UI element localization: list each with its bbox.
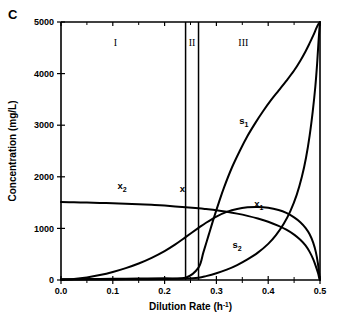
panel-label: C [8, 7, 17, 22]
y-tick-label: 5000 [34, 17, 54, 27]
region-label-III: III [238, 37, 248, 48]
curve-label-s2: s2 [233, 239, 242, 252]
x-tick-label: 0.1 [107, 286, 120, 296]
x-tick-label: 0.4 [262, 286, 275, 296]
region-label-I: I [114, 37, 117, 48]
curve-s2 [61, 22, 320, 280]
curve-s1 [61, 22, 320, 279]
curve-label-x1: x1 [254, 198, 263, 211]
curve-x2 [61, 202, 320, 280]
curve-label-s1: s1 [239, 115, 248, 128]
y-tick-label: 0 [49, 275, 54, 285]
y-tick-label: 3000 [34, 120, 54, 130]
y-tick-label: 2000 [34, 172, 54, 182]
x-tick-label: 0.3 [210, 286, 223, 296]
x-axis-title: Dilution Rate (h-1) [149, 301, 232, 313]
concentration-vs-dilution-rate-chart: 0100020003000400050000.00.10.20.30.40.5I… [0, 0, 343, 320]
curve-label-x2: x2 [118, 180, 127, 193]
curve-label-x: x [180, 183, 186, 194]
x-tick-label: 0.0 [55, 286, 68, 296]
figure-panel-c: C 0100020003000400050000.00.10.20.30.40.… [0, 0, 343, 320]
y-tick-label: 4000 [34, 69, 54, 79]
region-label-II: II [189, 37, 196, 48]
curve-x1 [61, 207, 320, 280]
y-axis-title: Concentration (mg/L) [7, 100, 18, 201]
x-tick-label: 0.2 [158, 286, 171, 296]
y-tick-label: 1000 [34, 224, 54, 234]
x-tick-label: 0.5 [314, 286, 327, 296]
